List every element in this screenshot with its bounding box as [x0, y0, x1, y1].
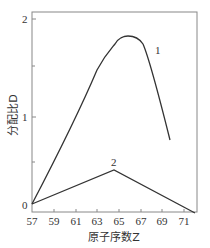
series-1-line [32, 36, 170, 204]
plot-frame [32, 12, 197, 212]
svg-text:71: 71 [179, 215, 190, 227]
svg-text:65: 65 [114, 215, 126, 227]
svg-text:61: 61 [71, 215, 82, 227]
curve-2-label: 2 [111, 156, 117, 168]
svg-text:0: 0 [22, 199, 28, 211]
svg-text:63: 63 [92, 215, 104, 227]
x-axis-label: 原子序数Z [88, 230, 140, 244]
svg-text:1: 1 [22, 111, 28, 123]
svg-text:67: 67 [136, 215, 148, 227]
curve-1-label: 1 [155, 44, 161, 56]
chart: 2 1 0 57 59 61 63 65 67 69 71 1 2 原子序数Z … [0, 0, 210, 248]
y-axis-label: 分配比D [7, 94, 20, 135]
svg-text:69: 69 [157, 215, 169, 227]
y-axis-ticks [32, 19, 36, 162]
svg-text:59: 59 [49, 215, 61, 227]
svg-text:2: 2 [22, 13, 28, 25]
x-tick-labels: 57 59 61 63 65 67 69 71 [27, 215, 190, 227]
svg-text:57: 57 [27, 215, 39, 227]
y-tick-labels: 2 1 0 [22, 13, 28, 211]
series-2-line [32, 170, 195, 213]
